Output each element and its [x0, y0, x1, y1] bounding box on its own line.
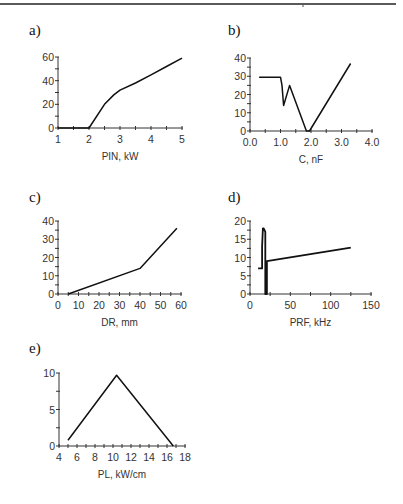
y-tick-label: 0 [49, 440, 55, 452]
y-tick-label: 40 [234, 52, 246, 64]
y-tick-label: 0 [48, 288, 54, 300]
y-tick-label: 10 [42, 270, 54, 282]
y-tick-label: 30 [42, 233, 54, 245]
data-series-line [258, 228, 351, 294]
x-tick-label: 2.0 [304, 136, 319, 148]
x-tick-label: 0 [55, 299, 61, 311]
chart-c: 0102030405060010203040DR, mm [42, 215, 187, 328]
y-tick-label: 20 [234, 89, 246, 101]
chart-a: 123450204060PIN, kW [42, 51, 185, 162]
charts-canvas: 123450204060PIN, kW 0.01.02.03.04.001020… [0, 0, 403, 504]
x-tick-label: 2 [86, 133, 92, 145]
x-tick-label: 50 [284, 299, 296, 311]
x-axis-title: PRF, kHz [290, 317, 332, 328]
x-tick-label: 150 [362, 299, 380, 311]
chart-b: 0.01.02.03.04.0010203040C, nF [234, 52, 379, 165]
y-tick-label: 15 [234, 233, 246, 245]
x-tick-label: 3 [117, 133, 123, 145]
x-tick-label: 5 [179, 133, 185, 145]
x-tick-label: 0 [247, 299, 253, 311]
x-axis-title: PL, kW/cm [98, 469, 146, 480]
x-tick-label: 20 [93, 299, 105, 311]
chart-d: 05010015005101520PRF, kHz [234, 215, 380, 328]
x-tick-label: 16 [161, 451, 173, 463]
chart-e: 46810121416180510PL, kW/cm [43, 367, 191, 480]
x-tick-label: 50 [155, 299, 167, 311]
x-tick-label: 6 [74, 451, 80, 463]
x-tick-label: 4 [56, 451, 62, 463]
x-axis-title: PIN, kW [102, 151, 139, 162]
data-series-line [68, 228, 177, 294]
x-tick-label: 100 [322, 299, 340, 311]
y-tick-label: 0 [240, 288, 246, 300]
x-axis-title: DR, mm [101, 317, 138, 328]
data-series-line [68, 375, 173, 446]
y-tick-label: 20 [42, 252, 54, 264]
x-tick-label: 1.0 [273, 136, 288, 148]
x-tick-label: 4 [148, 133, 154, 145]
x-tick-label: 60 [175, 299, 187, 311]
data-series-line [58, 58, 182, 128]
x-tick-label: 10 [73, 299, 85, 311]
y-tick-label: 0 [48, 122, 54, 134]
x-tick-label: 0.0 [243, 136, 258, 148]
y-tick-label: 40 [42, 75, 54, 87]
y-tick-label: 20 [42, 98, 54, 110]
x-tick-label: 8 [92, 451, 98, 463]
x-tick-label: 30 [114, 299, 126, 311]
y-tick-label: 30 [234, 70, 246, 82]
x-tick-label: 18 [179, 451, 191, 463]
x-tick-label: 12 [125, 451, 137, 463]
y-tick-label: 10 [43, 367, 55, 379]
x-tick-label: 1 [55, 133, 61, 145]
x-axis-title: C, nF [299, 154, 323, 165]
x-tick-label: 14 [143, 451, 155, 463]
y-tick-label: 40 [42, 215, 54, 227]
data-series-line [259, 64, 351, 132]
y-tick-label: 10 [234, 252, 246, 264]
y-tick-label: 10 [234, 107, 246, 119]
x-tick-label: 40 [134, 299, 146, 311]
y-tick-label: 60 [42, 51, 54, 63]
x-tick-label: 4.0 [365, 136, 380, 148]
y-tick-label: 20 [234, 215, 246, 227]
y-tick-label: 5 [240, 270, 246, 282]
x-tick-label: 10 [107, 451, 119, 463]
x-tick-label: 3.0 [334, 136, 349, 148]
y-tick-label: 5 [49, 404, 55, 416]
y-tick-label: 0 [240, 125, 246, 137]
